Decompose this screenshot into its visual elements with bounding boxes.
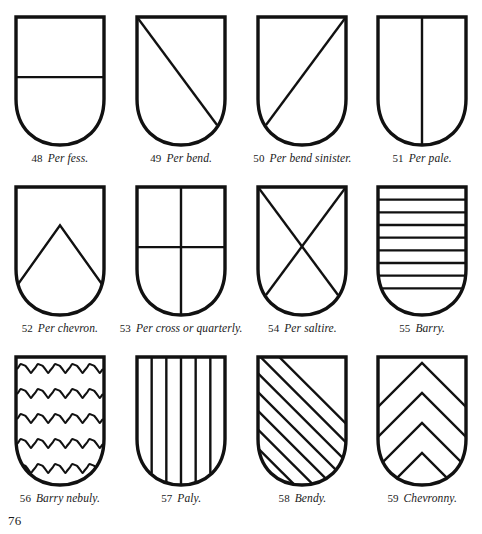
shield-drawing-barry-icon xyxy=(372,183,472,319)
shield-caption: 57 Paly. xyxy=(161,492,201,505)
shield-caption-number: 57 xyxy=(161,492,174,504)
shield-figure-55[interactable]: 55 Barry. xyxy=(362,170,482,340)
heraldry-plate: 48 Per fess.49 Per bend.50 Per bend sini… xyxy=(0,0,482,534)
shield-chevronny[interactable] xyxy=(372,353,472,489)
shield-caption-number: 59 xyxy=(387,492,400,504)
shield-per-pale[interactable] xyxy=(372,13,472,149)
shield-figure-49[interactable]: 49 Per bend. xyxy=(120,0,243,170)
shield-drawing-per-chevron-icon xyxy=(10,183,110,319)
shield-caption-number: 52 xyxy=(22,322,35,334)
shield-caption-number: 53 xyxy=(120,322,133,334)
shield-caption-name: Per cross or quarterly. xyxy=(136,322,243,334)
shield-caption-number: 51 xyxy=(393,152,406,164)
shield-caption-name: Per bend. xyxy=(166,152,212,164)
shield-figure-53[interactable]: 53 Per cross or quarterly. xyxy=(120,170,243,340)
shield-figure-59[interactable]: 59 Chevronny. xyxy=(362,340,482,510)
shield-caption-name: Per pale. xyxy=(409,152,452,164)
shield-per-fess[interactable] xyxy=(10,13,110,149)
shield-caption-number: 54 xyxy=(268,322,281,334)
shield-figure-58[interactable]: 58 Bendy. xyxy=(243,340,363,510)
shield-drawing-per-bend-icon xyxy=(131,13,231,149)
shield-figure-54[interactable]: 54 Per saltire. xyxy=(243,170,363,340)
shield-drawing-paly-icon xyxy=(131,353,231,489)
shield-caption-name: Chevronny. xyxy=(404,492,457,504)
shield-caption-name: Barry. xyxy=(415,322,445,334)
shield-caption: 53 Per cross or quarterly. xyxy=(120,322,243,335)
shield-caption: 59 Chevronny. xyxy=(387,492,456,505)
shield-caption-number: 58 xyxy=(279,492,292,504)
shield-per-saltire[interactable] xyxy=(252,183,352,319)
shield-paly[interactable] xyxy=(131,353,231,489)
shield-per-bend[interactable] xyxy=(131,13,231,149)
shield-caption-name: Per fess. xyxy=(48,152,89,164)
shield-per-bend-sinister[interactable] xyxy=(252,13,352,149)
shield-caption: 58 Bendy. xyxy=(279,492,327,505)
shield-drawing-per-pale-icon xyxy=(372,13,472,149)
shield-caption-name: Per bend sinister. xyxy=(270,152,352,164)
shield-caption: 56 Barry nebuly. xyxy=(20,492,100,505)
shield-per-cross[interactable] xyxy=(131,183,231,319)
shield-caption-number: 48 xyxy=(32,152,45,164)
shield-per-chevron[interactable] xyxy=(10,183,110,319)
shield-bendy[interactable] xyxy=(252,353,352,489)
shield-figure-48[interactable]: 48 Per fess. xyxy=(0,0,120,170)
shield-drawing-chevronny-icon xyxy=(372,353,472,489)
shield-caption-name: Paly. xyxy=(177,492,201,504)
shield-barry-nebuly[interactable] xyxy=(10,353,110,489)
shield-grid: 48 Per fess.49 Per bend.50 Per bend sini… xyxy=(0,0,482,510)
shield-caption-name: Bendy. xyxy=(295,492,327,504)
shield-drawing-bendy-icon xyxy=(252,353,352,489)
shield-caption-name: Barry nebuly. xyxy=(36,492,100,504)
shield-figure-50[interactable]: 50 Per bend sinister. xyxy=(243,0,363,170)
shield-drawing-per-fess-icon xyxy=(10,13,110,149)
shield-barry[interactable] xyxy=(372,183,472,319)
shield-caption: 51 Per pale. xyxy=(393,152,452,165)
shield-drawing-barry-nebuly-icon xyxy=(10,353,110,489)
shield-figure-51[interactable]: 51 Per pale. xyxy=(362,0,482,170)
shield-figure-52[interactable]: 52 Per chevron. xyxy=(0,170,120,340)
shield-caption-name: Per chevron. xyxy=(38,322,98,334)
shield-caption: 50 Per bend sinister. xyxy=(253,152,351,165)
shield-caption-name: Per saltire. xyxy=(284,322,337,334)
folio-number: 76 xyxy=(8,513,22,529)
shield-figure-57[interactable]: 57 Paly. xyxy=(120,340,243,510)
shield-caption-number: 49 xyxy=(150,152,163,164)
shield-caption-number: 55 xyxy=(399,322,412,334)
shield-drawing-per-cross-icon xyxy=(131,183,231,319)
shield-caption-number: 50 xyxy=(253,152,266,164)
shield-drawing-per-bend-sinister-icon xyxy=(252,13,352,149)
shield-caption: 54 Per saltire. xyxy=(268,322,337,335)
shield-caption: 55 Barry. xyxy=(399,322,445,335)
shield-figure-56[interactable]: 56 Barry nebuly. xyxy=(0,340,120,510)
shield-caption: 49 Per bend. xyxy=(150,152,212,165)
shield-caption: 48 Per fess. xyxy=(32,152,89,165)
shield-drawing-per-saltire-icon xyxy=(252,183,352,319)
shield-caption: 52 Per chevron. xyxy=(22,322,98,335)
shield-caption-number: 56 xyxy=(20,492,33,504)
